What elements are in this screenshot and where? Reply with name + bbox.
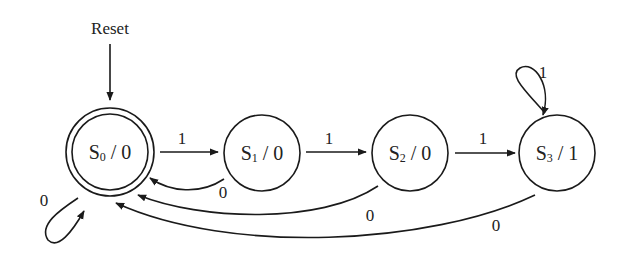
reset-label: Reset: [91, 19, 129, 38]
svg-text:S2 / 0: S2 / 0: [389, 142, 432, 165]
svg-text:S3 / 1: S3 / 1: [536, 142, 579, 165]
state-s3: S3 / 1: [519, 115, 595, 191]
svg-text:0: 0: [492, 216, 501, 235]
state-s0: S0 / 0: [66, 108, 154, 196]
svg-text:0: 0: [366, 206, 375, 225]
transition-s1-s2: 1: [306, 129, 366, 152]
svg-text:S1 / 0: S1 / 0: [241, 142, 284, 165]
svg-text:0: 0: [40, 191, 49, 210]
svg-text:1: 1: [539, 63, 548, 82]
svg-text:1: 1: [325, 129, 334, 148]
transition-s3-self: 1: [516, 63, 547, 115]
transition-s0-self: 0: [40, 191, 84, 243]
svg-text:0: 0: [219, 183, 228, 202]
svg-text:S0 / 0: S0 / 0: [89, 141, 132, 164]
transition-s2-s3: 1: [455, 129, 515, 153]
state-diagram: Reset S0 / 0 S1 / 0 S2 / 0 S3 / 1 1 1: [0, 0, 632, 258]
svg-text:1: 1: [479, 129, 488, 148]
transition-s1-s0: 0: [150, 178, 227, 202]
transition-s2-s0: 0: [138, 186, 378, 225]
state-s2: S2 / 0: [372, 115, 448, 191]
transition-s0-s1: 1: [160, 129, 218, 152]
svg-text:1: 1: [178, 129, 187, 148]
transition-s3-s0: 0: [116, 195, 535, 238]
state-s1: S1 / 0: [224, 115, 300, 191]
